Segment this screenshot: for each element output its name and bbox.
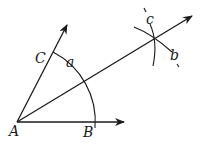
- arc-c: [150, 24, 155, 66]
- label-arc-c: c: [146, 11, 154, 27]
- label-arc-a: a: [66, 54, 74, 70]
- label-b-point: B: [82, 124, 93, 140]
- bisector-ray: [17, 16, 192, 122]
- label-a-vertex: A: [7, 123, 19, 139]
- tick-mark-bottom: [177, 64, 179, 67]
- label-c-point: C: [35, 50, 46, 66]
- diagram-svg: A B C a c b: [0, 0, 202, 145]
- bisector-diagram: A B C a c b: [0, 0, 202, 145]
- label-arc-b: b: [170, 47, 179, 63]
